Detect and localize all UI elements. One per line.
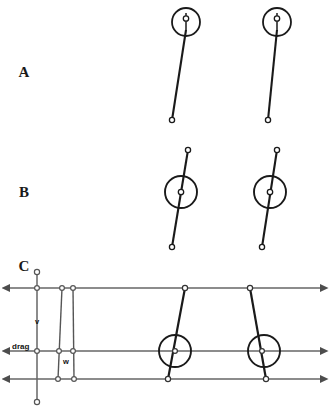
panel-c: C v drag w <box>10 258 320 405</box>
panel-b: B <box>19 147 286 249</box>
rod-b-left-shaft <box>172 150 188 247</box>
rod-b-right-shaft <box>262 150 277 247</box>
panel-c-vertical-axis <box>34 269 39 404</box>
vertical-axis-mid-crossing-node <box>35 349 40 354</box>
rod-a-left-shaft <box>172 30 186 120</box>
drag-label: drag <box>12 342 29 351</box>
rod-b-right-top-node <box>274 147 279 152</box>
rod-a-right-bottom-node <box>265 117 270 122</box>
rod-c-left-bottom-node <box>165 376 170 381</box>
panel-a: A <box>19 8 291 123</box>
rod-b-left-center-node <box>178 189 183 194</box>
parallelogram-mid-right-node <box>71 349 76 354</box>
rod-b-right-bottom-node <box>259 244 264 249</box>
rod-b-right <box>254 147 286 249</box>
parallelogram-left-edge <box>58 288 62 379</box>
rod-a-right-shaft <box>268 30 277 120</box>
parallelogram-top-right-node <box>71 286 76 291</box>
panel-c-arrows <box>10 288 320 379</box>
parallelogram-top-left-node <box>60 286 65 291</box>
parallelogram-right-edge <box>73 288 74 379</box>
rod-c-right-top-node <box>247 285 252 290</box>
rod-a-left <box>169 8 200 123</box>
rod-b-right-center-node <box>267 189 272 194</box>
parallelogram-mid-left-node <box>57 349 62 354</box>
figure-canvas: A B <box>0 0 329 420</box>
panel-b-letter: B <box>19 184 29 200</box>
rod-a-right-inner-node <box>274 16 279 21</box>
rod-c-left-center-node <box>173 349 178 354</box>
parallelogram-bottom-left-node <box>56 377 61 382</box>
rod-c-right-bottom-node <box>263 376 268 381</box>
rod-a-left-inner-node <box>183 16 188 21</box>
vertical-axis-top-crossing-node <box>35 286 40 291</box>
rod-b-left-bottom-node <box>169 244 174 249</box>
rod-c-right <box>247 285 280 381</box>
rod-b-left <box>165 147 197 249</box>
rod-c-right-center-node <box>260 349 265 354</box>
rod-a-right <box>263 8 291 123</box>
rod-b-left-top-node <box>185 147 190 152</box>
parallelogram-bottom-right-node <box>72 377 77 382</box>
panel-a-letter: A <box>19 64 30 80</box>
rod-a-left-bottom-node <box>169 117 174 122</box>
rod-c-left <box>159 285 191 381</box>
rod-c-left-top-node <box>182 285 187 290</box>
velocity-label: v <box>35 317 40 326</box>
width-label: w <box>62 357 69 366</box>
vertical-axis-top-node <box>34 269 39 274</box>
panel-c-parallelogram <box>56 286 77 382</box>
panel-c-letter: C <box>19 258 30 274</box>
vertical-axis-bottom-node <box>34 399 39 404</box>
